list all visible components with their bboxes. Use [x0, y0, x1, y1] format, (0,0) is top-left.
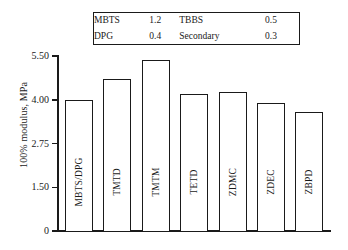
bar-label: MBTS/DPG [73, 137, 85, 227]
legend-name-tbbs: TBBS [179, 13, 265, 29]
bar-label: TMTD [111, 137, 123, 227]
legend-value-secondary: 0.3 [265, 29, 299, 45]
bar-chart-figure: MBTS 1.2 TBBS 0.5 DPG 0.4 Secondary 0.3 … [0, 0, 348, 250]
legend-name-secondary: Secondary [179, 29, 265, 45]
y-tick-mark [52, 230, 57, 232]
legend-row: DPG 0.4 Secondary 0.3 [94, 29, 299, 45]
parameter-legend-box: MBTS 1.2 TBBS 0.5 DPG 0.4 Secondary 0.3 [93, 12, 300, 45]
y-tick-label: 4.00 [32, 95, 50, 105]
legend-name-dpg: DPG [94, 29, 149, 45]
y-axis-line [57, 55, 59, 232]
legend-name-mbts: MBTS [94, 13, 149, 29]
legend-value-mbts: 1.2 [149, 13, 179, 29]
bar-label: TMTM [150, 137, 162, 227]
y-tick-label: 0 [44, 226, 49, 236]
legend-value-tbbs: 0.5 [265, 13, 299, 29]
bar-label: ZDEC [265, 137, 277, 227]
y-tick-label: 1.50 [32, 182, 50, 192]
bar-label: ZBPD [303, 137, 315, 227]
legend-value-dpg: 0.4 [149, 29, 179, 45]
y-tick-label: 5.50 [32, 51, 50, 61]
legend-table: MBTS 1.2 TBBS 0.5 DPG 0.4 Secondary 0.3 [94, 13, 299, 44]
bar-label: TETD [188, 137, 200, 227]
y-tick-mark [52, 99, 57, 101]
bar-label: ZDMC [227, 137, 239, 227]
y-tick-label: 2.75 [32, 139, 50, 149]
y-tick-mark [52, 187, 57, 189]
y-tick-mark [52, 55, 57, 57]
y-tick-mark [52, 143, 57, 145]
legend-row: MBTS 1.2 TBBS 0.5 [94, 13, 299, 29]
